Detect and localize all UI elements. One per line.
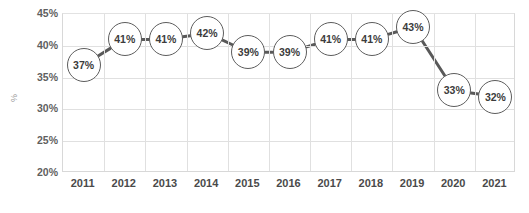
x-axis-tick-label: 2011	[60, 178, 106, 189]
data-point-marker[interactable]: 37%	[67, 48, 101, 82]
y-axis-tick-label: 20%	[24, 167, 58, 178]
data-point-marker[interactable]: 42%	[190, 16, 224, 50]
x-axis-tick-label: 2019	[389, 178, 435, 189]
gridline-vertical	[351, 14, 352, 171]
plot-area: 37%41%41%42%39%39%41%41%43%33%32%	[62, 13, 515, 172]
data-point-marker[interactable]: 41%	[314, 22, 348, 56]
gridline-vertical	[187, 14, 188, 171]
data-point-marker[interactable]: 41%	[108, 22, 142, 56]
x-axis-tick-label: 2012	[101, 178, 147, 189]
x-axis-tick-label: 2013	[142, 178, 188, 189]
gridline-horizontal	[63, 141, 514, 142]
x-axis-tick-label: 2014	[183, 178, 229, 189]
gridline-vertical	[392, 14, 393, 171]
gridline-vertical	[145, 14, 146, 171]
x-axis-tick-label: 2017	[307, 178, 353, 189]
data-point-marker[interactable]: 43%	[396, 10, 430, 44]
y-axis-tick-label: 30%	[24, 103, 58, 114]
data-point-marker[interactable]: 32%	[478, 80, 512, 114]
gridline-vertical	[475, 14, 476, 171]
gridline-vertical	[310, 14, 311, 171]
x-axis-tick-label: 2016	[266, 178, 312, 189]
gridline-vertical	[228, 14, 229, 171]
gridline-vertical	[434, 14, 435, 171]
x-axis-tick-labels: 2011201220132014201520162017201820192020…	[62, 178, 515, 198]
gridline-vertical	[104, 14, 105, 171]
gridline-horizontal	[63, 109, 514, 110]
data-point-marker[interactable]: 39%	[273, 35, 307, 69]
y-axis-tick-labels: 20%25%30%35%40%45%	[20, 0, 58, 213]
y-axis-tick-label: 25%	[24, 135, 58, 146]
x-axis-tick-label: 2015	[224, 178, 270, 189]
y-axis-tick-label: 40%	[24, 40, 58, 51]
line-chart: % 20%25%30%35%40%45% 37%41%41%42%39%39%4…	[0, 0, 529, 213]
y-axis-tick-label: 45%	[24, 8, 58, 19]
gridline-vertical	[269, 14, 270, 171]
x-axis-tick-label: 2020	[430, 178, 476, 189]
y-axis-tick-label: 35%	[24, 72, 58, 83]
x-axis-tick-label: 2021	[471, 178, 517, 189]
x-axis-tick-label: 2018	[348, 178, 394, 189]
